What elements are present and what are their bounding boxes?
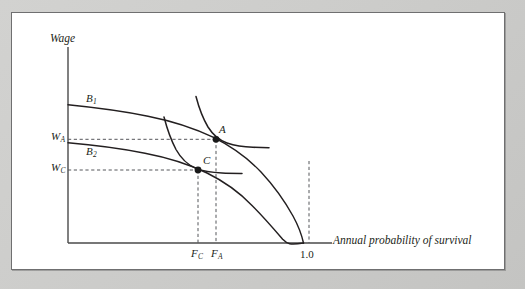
curve-label-b2-base: B: [86, 145, 93, 157]
curve-label-b2-sub: 2: [93, 150, 97, 159]
x-axis-title: Annual probability of survival: [333, 235, 472, 247]
y-tick-label-wage-a-sub: A: [60, 135, 65, 144]
y-axis-title: Wage: [50, 33, 75, 45]
x-tick-label-one: 1.0: [300, 249, 314, 260]
curve-label-b1: B1: [86, 93, 96, 104]
y-tick-label-wage-a: WA: [51, 131, 65, 142]
y-tick-label-wage-c: WC: [51, 162, 65, 173]
figure-root: Wage Annual probability of survival B1 B…: [0, 0, 525, 289]
point-label-a: A: [219, 124, 226, 135]
curve-label-b1-base: B: [86, 92, 93, 104]
x-tick-label-prob-a-base: F: [211, 247, 218, 259]
x-tick-label-prob-c-base: F: [191, 247, 198, 259]
figure-plate: [11, 12, 505, 270]
x-tick-label-prob-c-sub: C: [198, 252, 203, 261]
curve-label-b1-sub: 1: [93, 97, 97, 106]
y-tick-label-wage-c-sub: C: [60, 166, 65, 175]
x-tick-label-prob-c: FC: [191, 248, 203, 259]
x-tick-label-prob-a: FA: [211, 248, 222, 259]
y-tick-label-wage-a-base: W: [51, 130, 60, 142]
curve-label-b2: B2: [86, 146, 96, 157]
y-tick-label-wage-c-base: W: [51, 161, 60, 173]
point-label-c: C: [203, 155, 210, 166]
x-tick-label-prob-a-sub: A: [218, 252, 223, 261]
